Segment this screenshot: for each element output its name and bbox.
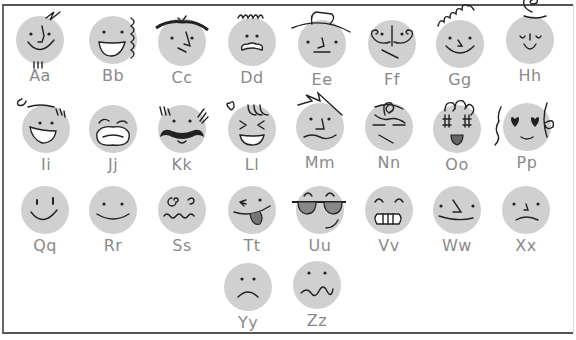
face-label: Oo [422, 155, 492, 174]
heart-eyes-face-icon [492, 101, 562, 153]
face-item-j: Jj [78, 103, 148, 183]
face-label: Uu [285, 236, 355, 255]
face-item-f: Ff [357, 18, 427, 98]
frame-right-edge [573, 4, 574, 334]
sleepy-swirl-face-icon [495, 14, 565, 66]
smug-face-icon [422, 184, 492, 236]
face-item-b: Bb [78, 14, 148, 94]
face-label: Pp [492, 153, 562, 172]
face-item-q: Qq [10, 184, 80, 264]
sunglasses-face-icon [285, 184, 355, 236]
face-label: Nn [354, 153, 424, 172]
face-label: Hh [495, 66, 565, 85]
face-item-w: Ww [422, 184, 492, 264]
skeptical-hair-part-face-icon [147, 16, 217, 68]
face-label: Yy [213, 313, 283, 332]
face-item-k: Kk [147, 103, 217, 183]
face-item-t: Tt [217, 184, 287, 264]
face-item-a: Aa [5, 14, 75, 94]
laughing-face-icon [11, 103, 81, 155]
face-item-n: Nn [354, 101, 424, 181]
grimace-curly-face-icon [217, 16, 287, 68]
face-label: Dd [217, 68, 287, 87]
dizzy-face-icon [147, 184, 217, 236]
face-label: Kk [147, 155, 217, 174]
face-item-v: Vv [354, 184, 424, 264]
face-label: Ee [287, 70, 357, 89]
face-item-h: Hh [495, 14, 565, 94]
face-item-c: Cc [147, 16, 217, 96]
mustache-face-icon [147, 103, 217, 155]
face-item-r: Rr [78, 184, 148, 264]
face-label: Cc [147, 68, 217, 87]
face-item-e: Ee [287, 18, 357, 98]
smirk-hair-squiggle-face-icon [5, 14, 75, 66]
face-item-g: Gg [425, 18, 495, 98]
face-item-i: Ii [11, 103, 81, 183]
wavy-mouth-face-icon [282, 259, 352, 311]
starry-eyes-face-icon [422, 103, 492, 155]
face-label: Mm [285, 153, 355, 172]
smile-curly-hair-face-icon [425, 18, 495, 70]
face-item-l: Ll [217, 103, 287, 183]
smile-face-icon [78, 184, 148, 236]
face-label: Ll [217, 155, 287, 174]
face-item-z: Zz [282, 259, 352, 339]
face-label: Aa [5, 66, 75, 85]
face-item-s: Ss [147, 184, 217, 264]
grin-face-icon [10, 184, 80, 236]
face-label: Ff [357, 70, 427, 89]
crying-face-icon [78, 103, 148, 155]
face-item-y: Yy [213, 261, 283, 340]
face-item-o: Oo [422, 103, 492, 183]
face-item-x: Xx [491, 184, 561, 264]
face-item-m: Mm [285, 101, 355, 181]
face-label: Vv [354, 236, 424, 255]
frown-face-icon [213, 261, 283, 313]
face-item-p: Pp [492, 101, 562, 181]
sad-face-icon [491, 184, 561, 236]
tongue-wink-face-icon [217, 184, 287, 236]
big-smile-curls-face-icon [78, 14, 148, 66]
squint-laugh-face-icon [217, 103, 287, 155]
face-label: Zz [282, 311, 352, 330]
face-label: Ww [422, 236, 492, 255]
face-label: Tt [217, 236, 287, 255]
face-label: Xx [491, 236, 561, 255]
face-item-d: Dd [217, 16, 287, 96]
face-item-u: Uu [285, 184, 355, 264]
face-label: Rr [78, 236, 148, 255]
face-label: Qq [10, 236, 80, 255]
tired-messy-face-icon [354, 101, 424, 153]
neutral-hat-face-icon [287, 18, 357, 70]
face-label: Bb [78, 66, 148, 85]
face-label: Gg [425, 70, 495, 89]
curled-mustache-face-icon [357, 18, 427, 70]
face-label: Jj [78, 155, 148, 174]
face-label: Ss [147, 236, 217, 255]
teeth-grin-face-icon [354, 184, 424, 236]
face-label: Ii [11, 155, 81, 174]
worried-spiky-face-icon [285, 101, 355, 153]
